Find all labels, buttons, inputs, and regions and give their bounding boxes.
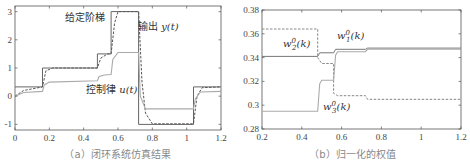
x-tick-label: 0.4 [78,133,90,143]
series-line-2 [262,49,461,111]
x-tick-label: 0.4 [296,132,308,142]
y-tick-label: 0.3 [248,100,260,110]
label-w1: w01(k) [337,29,364,44]
x-tick-label: 0.8 [376,132,388,142]
chart-panel-a: 00.20.40.60.811.2-10123 给定阶梯 输出 y(t) 控制律… [0,0,235,164]
x-tick-label: 1.2 [215,133,226,143]
series-line-2 [15,53,221,109]
x-tick-label: 1 [184,133,189,143]
series-line-0 [15,12,221,125]
y-tick-label: 0.38 [243,5,259,15]
chart-b-plot-area [262,10,461,129]
y-tick-label: 3 [8,7,13,17]
y-tick-label: 0 [8,91,13,101]
x-tick-label: 0.6 [112,133,124,143]
caption-a: （a）闭环系统仿真结果 [0,146,235,161]
x-tick-label: 0.8 [147,133,159,143]
y-tick-label: -1 [5,119,13,129]
x-tick-label: 0 [13,133,18,143]
y-tick-label: 0.28 [243,124,259,134]
caption-b: （b）归一化的权值 [235,146,470,161]
x-tick-label: 1 [419,132,424,142]
y-tick-label: 1 [8,63,13,73]
y-tick-label: 0.36 [243,29,259,39]
x-tick-label: 1.2 [455,132,466,142]
chart-b-ticks: 0.20.40.60.811.20.280.30.320.340.360.38 [243,5,466,142]
label-control: 控制律 u(t) [86,83,138,95]
x-tick-label: 0.2 [44,133,55,143]
chart-a-svg: 00.20.40.60.811.2-10123 给定阶梯 输出 y(t) 控制律… [0,0,235,164]
y-tick-label: 0.32 [243,76,259,86]
label-w3: w03(k) [323,100,350,115]
label-w2: w02(k) [283,37,310,52]
x-tick-label: 0.6 [336,132,348,142]
label-output: 输出 y(t) [138,20,179,32]
label-setpoint: 给定阶梯 [65,11,105,23]
y-tick-label: 0.34 [243,53,259,63]
chart-panel-b: 0.20.40.60.811.20.280.30.320.340.360.38 … [235,0,470,164]
chart-b-svg: 0.20.40.60.811.20.280.30.320.340.360.38 … [235,0,470,164]
chart-a-plot-area [15,6,221,130]
y-tick-label: 2 [8,35,13,45]
